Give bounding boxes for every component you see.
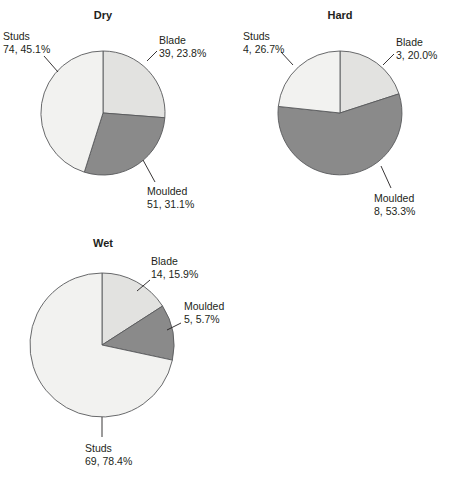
chart-hard-label-studs-name: Studs	[243, 30, 270, 42]
chart-hard-label-studs-value: 4, 26.7%	[243, 43, 284, 55]
chart-dry-label-moulded-name: Moulded	[147, 185, 187, 197]
chart-hard: Hard Blade 3, 20.0% Moulded 8, 53.3% Stu…	[243, 9, 437, 217]
chart-wet-label-blade-name: Blade	[151, 255, 178, 267]
chart-dry-slice-blade	[103, 51, 165, 118]
chart-dry-title: Dry	[94, 9, 113, 21]
chart-dry-label-blade-value: 39, 23.8%	[159, 47, 206, 59]
pie-chart-figure: Dry Blade 39, 23.8% Moulded 51, 31.1% St…	[0, 0, 456, 477]
chart-hard-leader-moulded	[381, 166, 391, 188]
chart-hard-label-moulded-value: 8, 53.3%	[374, 205, 415, 217]
chart-dry-label-studs-name: Studs	[3, 30, 30, 42]
chart-dry-label-moulded-value: 51, 31.1%	[147, 198, 194, 210]
chart-wet-label-studs-value: 69, 78.4%	[85, 455, 132, 467]
chart-wet-label-moulded-name: Moulded	[184, 300, 224, 312]
chart-hard-label-moulded-name: Moulded	[374, 192, 414, 204]
chart-dry-leader-blade	[147, 51, 157, 61]
chart-hard-label-blade-name: Blade	[396, 36, 423, 48]
chart-dry-leader-moulded	[143, 160, 155, 182]
chart-wet-label-moulded-value: 5, 5.7%	[184, 313, 220, 325]
chart-hard-title: Hard	[327, 9, 352, 21]
chart-wet-label-blade-value: 14, 15.9%	[151, 268, 198, 280]
chart-hard-slice-studs	[278, 51, 340, 113]
chart-dry-label-blade-name: Blade	[159, 34, 186, 46]
chart-dry: Dry Blade 39, 23.8% Moulded 51, 31.1% St…	[3, 9, 206, 210]
chart-dry-label-studs-value: 74, 45.1%	[3, 43, 50, 55]
chart-hard-leader-blade	[383, 54, 394, 65]
chart-wet: Wet Blade 14, 15.9% Moulded 5, 5.7% Stud…	[30, 237, 224, 467]
chart-wet-title: Wet	[93, 237, 113, 249]
chart-wet-label-studs-name: Studs	[85, 442, 112, 454]
chart-hard-label-blade-value: 3, 20.0%	[396, 49, 437, 61]
chart-dry-leader-studs	[44, 56, 58, 72]
